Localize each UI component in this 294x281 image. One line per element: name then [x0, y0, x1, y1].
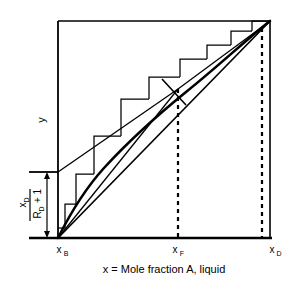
- tick-label-xf-sub: F: [180, 250, 184, 257]
- y-axis-label: y: [35, 117, 47, 123]
- tick-label-xd-main: x: [270, 244, 275, 255]
- fraction-denominator-sub: D: [38, 206, 45, 211]
- y-axis-label-text: y: [35, 117, 47, 123]
- tick-label-xb-main: x: [57, 244, 62, 255]
- x-axis-caption: x = Mole fraction A, liquid: [103, 263, 226, 275]
- tick-label-xf-main: x: [173, 244, 178, 255]
- mccabe-thiele-figure: x D R D + 1 y x B x F: [0, 0, 294, 281]
- tick-label-xb-sub: B: [64, 250, 69, 257]
- tick-label-xd-sub: D: [276, 250, 281, 257]
- fraction-denominator-main-2: + 1: [32, 188, 43, 203]
- distillation-diagram-svg: x D R D + 1 y x B x F: [0, 0, 294, 281]
- fraction-numerator-sub: D: [23, 197, 30, 202]
